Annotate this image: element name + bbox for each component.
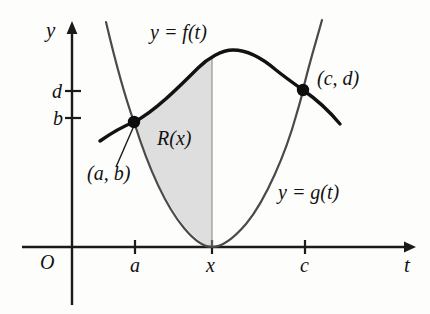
- figure-canvas: [0, 0, 430, 314]
- region-shading-R-of-x: [134, 57, 212, 247]
- x-tick-label-c: c: [300, 255, 309, 275]
- region-label-R-of-x: R(x): [157, 128, 191, 148]
- figure-region-between-curves: y t O d b a x c y = f(t) y = g(t) R(x) (…: [0, 0, 430, 314]
- curve-label-g: y = g(t): [278, 182, 339, 202]
- x-axis-label: t: [404, 255, 410, 276]
- x-tick-label-x: x: [206, 255, 215, 275]
- y-tick-label-b: b: [53, 108, 63, 128]
- origin-label: O: [40, 252, 54, 272]
- point-label-c-d: (c, d): [317, 68, 359, 88]
- point-label-a-b: (a, b): [87, 163, 130, 183]
- y-axis-label: y: [46, 20, 55, 41]
- point-marker-c-d: [297, 84, 309, 96]
- y-tick-label-d: d: [52, 81, 62, 101]
- x-tick-label-a: a: [130, 255, 140, 275]
- x-axis-arrowhead: [404, 242, 416, 253]
- curve-label-f: y = f(t): [150, 22, 207, 42]
- point-marker-a-b: [128, 116, 140, 128]
- y-axis-arrowhead: [67, 21, 78, 34]
